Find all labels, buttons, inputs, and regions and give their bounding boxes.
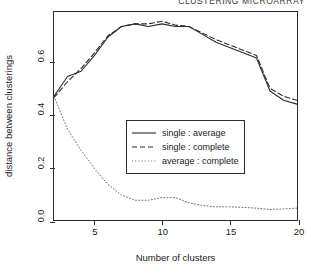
x-tick-label: 10 <box>158 227 169 237</box>
x-tick-mark <box>230 220 231 225</box>
y-tick-mark <box>50 62 55 63</box>
x-axis-title: Number of clusters <box>53 252 298 263</box>
x-tick-mark <box>299 220 300 225</box>
y-axis-title-text: distance between clusterings <box>3 55 14 177</box>
x-tick-label: 5 <box>92 227 97 237</box>
plot-frame: 0.00.20.40.6 5101520 <box>53 11 298 221</box>
legend-item: single : average <box>131 126 239 140</box>
x-tick-mark <box>162 220 163 225</box>
series-paths <box>54 12 297 220</box>
legend-key-dashed-icon <box>131 142 157 152</box>
y-tick-mark <box>50 222 55 223</box>
legend-key-solid-icon <box>131 128 157 138</box>
y-tick-label: 0.4 <box>37 103 46 116</box>
x-tick-mark <box>94 220 95 225</box>
legend-item: average : complete <box>131 154 239 168</box>
legend-item: single : complete <box>131 140 239 154</box>
y-tick-label: 0.2 <box>37 156 46 169</box>
y-tick-mark <box>50 168 55 169</box>
x-tick-label: 20 <box>294 227 305 237</box>
plot-area <box>54 12 297 220</box>
y-axis-title: distance between clusterings <box>2 11 14 221</box>
y-tick-label: 0.6 <box>37 50 46 63</box>
chart-legend: single : averagesingle : completeaverage… <box>126 120 245 174</box>
legend-key-dotted-icon <box>131 156 157 166</box>
y-tick-label: 0.0 <box>37 209 46 222</box>
legend-label: single : complete <box>162 143 230 152</box>
page-root: CLUSTERING MICROARRAY 0.00.20.40.6 51015… <box>0 0 311 277</box>
y-tick-mark <box>50 115 55 116</box>
chart-figure: 0.00.20.40.6 5101520 Number of clusters … <box>0 0 311 277</box>
legend-label: single : average <box>162 129 226 138</box>
legend-label: average : complete <box>162 157 239 166</box>
x-tick-label: 15 <box>226 227 237 237</box>
